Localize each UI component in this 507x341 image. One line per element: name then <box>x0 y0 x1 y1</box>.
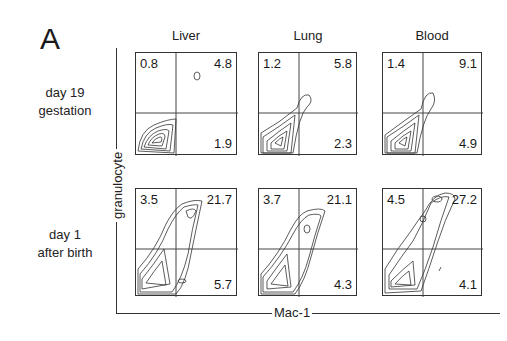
row-label-day19: day 19 gestation <box>20 84 110 120</box>
quadrant-ur: 21.1 <box>327 193 352 206</box>
plot-blood-day19: 1.4 9.1 4.9 <box>382 52 482 155</box>
quadrant-lr: 1.9 <box>214 137 232 150</box>
quadrant-ul: 4.5 <box>387 193 405 206</box>
quadrant-ul: 3.7 <box>263 193 281 206</box>
column-title-liver: Liver <box>136 28 236 43</box>
plot-liver-day1: 3.5 21.7 5.7 <box>135 188 237 296</box>
column-title-lung: Lung <box>258 28 358 43</box>
quadrant-ul: 3.5 <box>140 193 158 206</box>
quadrant-lr: 2.3 <box>334 137 352 150</box>
quadrant-ur: 27.2 <box>452 193 477 206</box>
quadrant-ur: 21.7 <box>207 193 232 206</box>
y-axis-label: granulocyte <box>110 149 125 222</box>
row-label-day1: day 1 after birth <box>20 226 110 262</box>
quadrant-ur: 4.8 <box>214 57 232 70</box>
plot-liver-day19: 0.8 4.8 1.9 <box>135 52 237 155</box>
quadrant-ul: 1.4 <box>387 57 405 70</box>
quadrant-lr: 5.7 <box>214 278 232 291</box>
x-axis-label: Mac-1 <box>272 305 312 320</box>
plot-blood-day1: 4.5 27.2 4.1 <box>382 188 482 296</box>
quadrant-lr: 4.1 <box>459 278 477 291</box>
quadrant-ur: 5.8 <box>334 57 352 70</box>
panel-letter: A <box>40 22 60 56</box>
quadrant-ul: 0.8 <box>140 57 158 70</box>
quadrant-lr: 4.3 <box>334 278 352 291</box>
quadrant-lr: 4.9 <box>459 137 477 150</box>
plot-lung-day19: 1.2 5.8 2.3 <box>258 52 357 155</box>
quadrant-ul: 1.2 <box>263 57 281 70</box>
column-title-blood: Blood <box>382 28 482 43</box>
quadrant-ur: 9.1 <box>459 57 477 70</box>
plot-lung-day1: 3.7 21.1 4.3 <box>258 188 357 296</box>
